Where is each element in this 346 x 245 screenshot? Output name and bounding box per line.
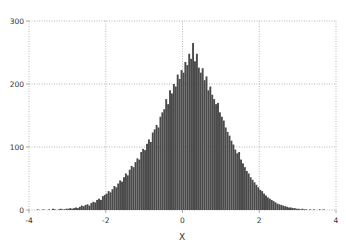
histogram-bar (301, 209, 303, 210)
histogram-bar (167, 104, 169, 210)
histogram-bar (156, 125, 158, 210)
histogram-bar (294, 208, 296, 210)
histogram-bar (92, 202, 94, 210)
histogram-bar (73, 208, 75, 210)
histogram-bar (273, 201, 275, 210)
histogram-bar (175, 87, 177, 210)
y-axis: 0100200300 (10, 17, 29, 215)
histogram-bar (161, 112, 163, 210)
histogram-bar (123, 177, 125, 210)
histogram-bar (131, 166, 133, 210)
y-tick-label: 300 (10, 17, 25, 26)
histogram-bar (117, 184, 119, 210)
histogram-bar (171, 93, 173, 210)
x-tick-label: -4 (25, 216, 33, 225)
histogram-bar (288, 207, 290, 210)
histogram-bar (252, 180, 254, 210)
histogram-bar (286, 207, 288, 210)
histogram-bar (217, 103, 219, 210)
histogram-bar (213, 99, 215, 210)
histogram-bar (313, 209, 315, 210)
histogram-bar (42, 209, 44, 210)
histogram-bar (296, 209, 298, 210)
histogram-bar (144, 150, 146, 210)
histogram-bar (140, 152, 142, 210)
histogram-bar (204, 80, 206, 210)
histogram-bar (240, 160, 242, 210)
histogram-bar (232, 144, 234, 210)
histogram-bar (110, 192, 112, 210)
histogram-bar (169, 90, 171, 210)
histogram-bar (129, 170, 131, 210)
histogram-bar (196, 54, 198, 210)
histogram-bar (186, 65, 188, 210)
histogram-bar (121, 182, 123, 210)
histogram-bar (253, 182, 255, 210)
histogram-bar (125, 173, 127, 210)
histogram-bar (265, 196, 267, 210)
histogram-bar (284, 206, 286, 210)
histogram-bar (142, 149, 144, 210)
histogram-bar (62, 209, 64, 210)
histogram-bar (159, 117, 161, 210)
histogram-bar (173, 84, 175, 210)
histogram-bar (192, 43, 194, 210)
histogram-bar (133, 167, 135, 210)
histogram-bar (271, 200, 273, 210)
histogram-bars (37, 43, 325, 210)
histogram-bar (165, 99, 167, 210)
histogram-bar (257, 187, 259, 210)
histogram-bar (278, 204, 280, 210)
histogram-bar (234, 150, 236, 210)
histogram-bar (259, 190, 261, 210)
y-tick-label: 100 (10, 143, 25, 152)
histogram-bar (127, 175, 129, 210)
histogram-bar (54, 209, 56, 210)
histogram-bar (112, 189, 114, 210)
histogram-bar (108, 191, 110, 210)
histogram-bar (64, 209, 66, 210)
histogram-bar (244, 167, 246, 210)
histogram-bar (83, 206, 85, 210)
histogram-bar (152, 133, 154, 210)
histogram-bar (227, 132, 229, 210)
histogram-bar (246, 171, 248, 210)
histogram-bar (282, 206, 284, 210)
histogram-bar (263, 194, 265, 210)
x-tick-label: 2 (257, 216, 262, 225)
histogram-bar (146, 144, 148, 210)
histogram-bar (75, 207, 77, 210)
histogram-bar (250, 177, 252, 210)
histogram-bar (319, 209, 321, 210)
histogram-bar (87, 204, 89, 210)
histogram-bar (230, 141, 232, 210)
histogram-bar (225, 127, 227, 210)
histogram-bar (323, 209, 325, 210)
histogram-bar (206, 76, 208, 210)
x-tick-label: 0 (180, 216, 185, 225)
histogram-bar (113, 186, 115, 210)
histogram-bar (81, 206, 83, 210)
histogram-bar (69, 208, 71, 210)
histogram-bar (135, 162, 137, 210)
histogram-bar (90, 203, 92, 210)
histogram-bar (309, 209, 311, 210)
histogram-bar (219, 112, 221, 210)
histogram-bar (60, 209, 62, 210)
x-axis: -4-2024 (25, 210, 338, 225)
histogram-bar (65, 209, 67, 210)
x-tick-label: -2 (102, 216, 110, 225)
histogram-bar (79, 207, 81, 210)
histogram-bar (242, 163, 244, 210)
histogram-bar (255, 185, 257, 210)
histogram-bar (202, 68, 204, 210)
histogram-bar (236, 153, 238, 210)
histogram-bar (58, 209, 60, 210)
histogram-bar (71, 209, 73, 210)
histogram-bar (52, 209, 54, 210)
histogram-bar (198, 68, 200, 210)
histogram-bar (67, 209, 69, 210)
histogram-bar (215, 104, 217, 210)
histogram-bar (136, 158, 138, 210)
histogram-bar (211, 95, 213, 210)
